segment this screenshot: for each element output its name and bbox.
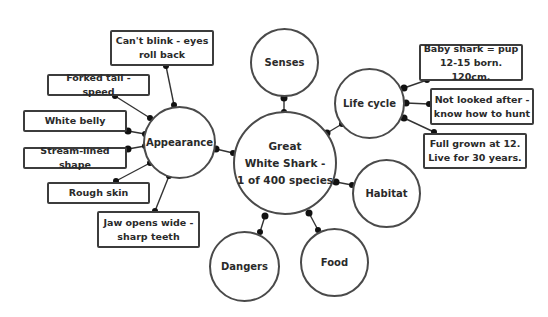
- branch-label: Habitat: [365, 185, 407, 202]
- note-box-not-looked-after: Not looked after - know how to hunt: [430, 88, 534, 125]
- central-topic-label: Great White Shark - 1 of 400 species: [237, 138, 333, 189]
- branch-label: Dangers: [221, 258, 268, 275]
- branch-label: Appearance: [146, 134, 213, 151]
- branch-label: Food: [321, 254, 348, 271]
- note-label: Full grown at 12. Live for 30 years.: [428, 137, 521, 165]
- branch-node-dangers: Dangers: [209, 231, 280, 302]
- note-label: Baby shark = pup 12-15 born. 120cm.: [421, 42, 521, 84]
- note-box-forked-tail: Forked tail - speed: [47, 74, 150, 96]
- branch-label: Senses: [265, 54, 305, 71]
- note-label: Rough skin: [69, 186, 128, 200]
- note-box-rough-skin: Rough skin: [47, 182, 150, 204]
- branch-node-habitat: Habitat: [352, 159, 421, 228]
- note-box-baby-shark: Baby shark = pup 12-15 born. 120cm.: [419, 44, 523, 81]
- note-box-jaw-opens: Jaw opens wide - sharp teeth: [97, 211, 200, 248]
- note-label: Can't blink - eyes roll back: [116, 34, 209, 62]
- note-box-white-belly: White belly: [23, 110, 127, 132]
- note-label: Jaw opens wide - sharp teeth: [103, 216, 193, 244]
- note-label: Stream-lined shape: [25, 144, 125, 172]
- central-topic-node: Great White Shark - 1 of 400 species: [233, 111, 337, 215]
- branch-label: Life cycle: [343, 95, 396, 112]
- note-label: White belly: [45, 114, 106, 128]
- branch-node-appearance: Appearance: [143, 106, 216, 179]
- note-box-cant-blink: Can't blink - eyes roll back: [110, 30, 214, 66]
- branch-node-life-cycle: Life cycle: [334, 68, 405, 139]
- note-label: Forked tail - speed: [49, 71, 148, 99]
- branch-node-food: Food: [300, 228, 369, 297]
- note-box-full-grown: Full grown at 12. Live for 30 years.: [423, 133, 527, 169]
- branch-node-senses: Senses: [250, 28, 319, 97]
- note-box-stream-lined: Stream-lined shape: [23, 147, 127, 169]
- note-label: Not looked after - know how to hunt: [434, 93, 530, 121]
